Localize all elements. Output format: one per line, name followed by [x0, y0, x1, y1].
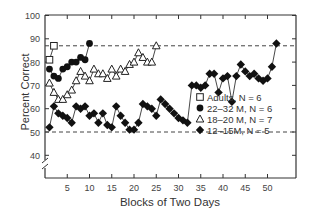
diamond-marker — [130, 125, 138, 133]
legend-item: Adults, N = 6 — [197, 92, 262, 103]
diamond-marker — [116, 111, 124, 119]
triangle-marker — [46, 79, 54, 86]
diamond-marker — [112, 102, 120, 110]
legend-label: 12–15M, N = 5 — [207, 125, 270, 136]
x-tick-label: 45 — [240, 183, 250, 193]
legend-item: 12–15M, N = 5 — [196, 125, 270, 136]
circle-marker — [197, 105, 204, 112]
legend-label: 22–32 M, N = 6 — [207, 103, 272, 114]
triangle-marker — [196, 115, 204, 122]
diamond-marker — [232, 72, 240, 80]
legend-item: 18–20 M, N = 7 — [196, 114, 272, 125]
diamond-marker — [94, 118, 102, 126]
y-tick-label: 60 — [30, 104, 40, 114]
diamond-marker — [45, 123, 53, 131]
y-tick-label: 90 — [30, 34, 40, 44]
diamond-marker — [99, 109, 107, 117]
diamond-marker — [134, 118, 142, 126]
y-tick-label: 80 — [30, 58, 40, 68]
line-chart: 4050607080901005101520253035404550 Adult… — [0, 0, 313, 221]
triangle-marker — [130, 58, 138, 65]
y-tick-label: 100 — [25, 11, 40, 21]
circle-marker — [86, 40, 93, 47]
triangle-marker — [90, 65, 98, 72]
y-tick-label: 40 — [30, 151, 40, 161]
y-tick-label: 50 — [30, 128, 40, 138]
y-tick-label: 70 — [30, 81, 40, 91]
square-marker — [51, 42, 58, 49]
triangle-marker — [72, 77, 80, 84]
diamond-marker — [272, 39, 280, 47]
diamond-marker — [50, 102, 58, 110]
x-tick-label: 20 — [129, 183, 139, 193]
x-tick-label: 35 — [196, 183, 206, 193]
circle-marker — [55, 75, 62, 82]
triangle-marker — [135, 49, 143, 56]
square-marker — [197, 94, 204, 101]
triangle-marker — [50, 88, 58, 95]
triangle-marker — [108, 65, 116, 72]
y-axis-label: Percent Correct — [19, 37, 31, 147]
x-tick-label: 5 — [65, 183, 70, 193]
diamond-marker — [121, 118, 129, 126]
diamond-marker — [237, 60, 245, 68]
triangle-marker — [68, 86, 76, 93]
legend: Adults, N = 622–32 M, N = 618–20 M, N = … — [196, 92, 272, 136]
legend-item: 22–32 M, N = 6 — [197, 103, 273, 114]
x-tick-label: 25 — [151, 183, 161, 193]
triangle-marker — [77, 67, 85, 74]
x-tick-label: 15 — [107, 183, 117, 193]
x-tick-label: 40 — [218, 183, 228, 193]
x-axis-label: Blocks of Two Days — [90, 196, 250, 208]
diamond-marker — [268, 63, 276, 71]
triangle-marker — [112, 72, 120, 79]
diamond-marker — [196, 126, 204, 134]
legend-label: 18–20 M, N = 7 — [207, 114, 272, 125]
legend-label: Adults, N = 6 — [207, 92, 262, 103]
circle-marker — [82, 56, 89, 63]
circle-marker — [46, 66, 53, 73]
x-tick-label: 30 — [173, 183, 183, 193]
x-tick-label: 50 — [262, 183, 272, 193]
square-marker — [46, 56, 53, 63]
x-tick-label: 10 — [84, 183, 94, 193]
diamond-marker — [152, 111, 160, 119]
diamond-marker — [210, 70, 218, 78]
